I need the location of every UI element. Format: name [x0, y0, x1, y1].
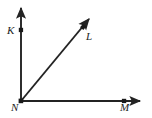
- geometry-canvas: [0, 0, 152, 118]
- geometry-figure: K L N M: [0, 0, 152, 118]
- point-label-n: N: [11, 102, 18, 113]
- point-label-k: K: [7, 25, 14, 36]
- point-label-m: M: [120, 102, 129, 113]
- point-dot-n: [19, 99, 24, 104]
- point-dot-k: [19, 28, 23, 32]
- point-label-l: L: [86, 31, 92, 42]
- ray-nl: [21, 19, 89, 101]
